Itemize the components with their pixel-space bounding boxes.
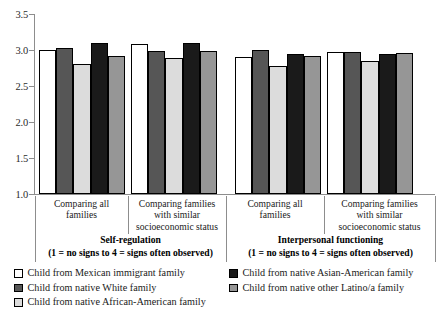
category-label-line: Comparing all <box>35 198 128 209</box>
section-label-band: Self-regulation(1 = no signs to 4 = sign… <box>35 234 435 262</box>
section-title: Self-regulation <box>35 234 226 247</box>
category-label-line: Comparing all <box>226 198 324 209</box>
bar <box>361 61 378 194</box>
bar-group <box>39 0 125 194</box>
category-label-line: with similar <box>324 209 435 220</box>
legend-item: Child from native Asian-American family <box>229 266 413 281</box>
bar-group <box>327 0 413 194</box>
bar <box>269 66 286 194</box>
legend-swatch-icon <box>229 269 238 278</box>
legend-swatch-icon <box>14 284 23 293</box>
bar <box>148 51 165 194</box>
bar <box>108 56 125 194</box>
bar <box>327 52 344 194</box>
y-tick-label: 1.5 <box>15 153 28 164</box>
section-subtitle: (1 = no signs to 4 = signs often observe… <box>35 247 226 260</box>
legend-label: Child from native African-American famil… <box>28 297 206 308</box>
section-title: Interpersonal functioning <box>226 234 435 247</box>
category-label-line: families <box>35 209 128 220</box>
legend-label: Child from native other Latino/a family <box>243 283 405 294</box>
label-separator-line <box>324 196 325 234</box>
legend-swatch-icon <box>14 298 23 307</box>
bar-chart-figure: 3.53.02.52.01.51.0 Comparing allfamilies… <box>0 0 437 324</box>
category-label: Comparing allfamilies <box>35 196 128 234</box>
category-label-line: socioeconomic status <box>128 221 226 232</box>
legend-label: Child from native Asian-American family <box>243 268 414 279</box>
y-tick-label: 2.5 <box>15 81 28 92</box>
category-label: Comparing allfamilies <box>226 196 324 234</box>
legend-swatch-icon <box>14 269 23 278</box>
label-separator-line <box>435 196 436 234</box>
category-label-line: with similar <box>128 209 226 220</box>
bar-group <box>131 0 217 194</box>
bar <box>379 54 396 194</box>
category-label-line: socioeconomic status <box>324 221 435 232</box>
category-label-line: Comparing families <box>128 198 226 209</box>
bar <box>39 50 56 194</box>
section-separator-line <box>226 234 227 262</box>
category-label: Comparing familieswith similarsocioecono… <box>324 196 435 234</box>
bar <box>73 64 90 194</box>
bar <box>200 51 217 194</box>
category-label-line: families <box>226 209 324 220</box>
bar <box>396 53 413 194</box>
bars-area <box>35 0 435 194</box>
bar <box>131 44 148 194</box>
legend-label: Child from Mexican immigrant family <box>28 268 185 279</box>
legend-item: Child from native African-American famil… <box>14 295 206 310</box>
legend-column-left: Child from Mexican immigrant familyChild… <box>14 266 206 310</box>
legend-item: Child from Mexican immigrant family <box>14 266 206 281</box>
bar <box>304 56 321 194</box>
legend-item: Child from native White family <box>14 281 206 296</box>
label-separator-line <box>226 196 227 234</box>
legend-swatch-icon <box>229 284 238 293</box>
category-label-line: Comparing families <box>324 198 435 209</box>
category-label: Comparing familieswith similarsocioecono… <box>128 196 226 234</box>
legend-column-right: Child from native Asian-American familyC… <box>229 266 413 295</box>
label-separator-line <box>128 196 129 234</box>
bar <box>165 58 182 194</box>
plot-area: 3.53.02.52.01.51.0 <box>0 0 437 196</box>
section-separator-line <box>35 234 36 262</box>
section-header: Interpersonal functioning(1 = no signs t… <box>226 234 435 262</box>
legend-item: Child from native other Latino/a family <box>229 281 413 296</box>
bar <box>56 48 73 194</box>
bar-group <box>235 0 321 194</box>
section-separator-line <box>435 234 436 262</box>
bar <box>252 50 269 194</box>
label-separator-line <box>35 196 36 234</box>
legend-label: Child from native White family <box>28 283 157 294</box>
y-tick-label: 1.0 <box>15 189 28 200</box>
y-axis: 3.53.02.52.01.51.0 <box>0 0 34 196</box>
y-tick-label: 3.5 <box>15 9 28 20</box>
y-tick-label: 3.0 <box>15 45 28 56</box>
bar <box>183 43 200 194</box>
y-tick-label: 2.0 <box>15 117 28 128</box>
bar <box>235 57 252 194</box>
bar <box>91 43 108 194</box>
section-header: Self-regulation(1 = no signs to 4 = sign… <box>35 234 226 262</box>
category-label-band: Comparing allfamiliesComparing familiesw… <box>35 196 435 234</box>
section-subtitle: (1 = no signs to 4 = signs often observe… <box>226 247 435 260</box>
bar <box>344 52 361 194</box>
chart-legend: Child from Mexican immigrant familyChild… <box>0 266 437 322</box>
bar <box>287 54 304 194</box>
